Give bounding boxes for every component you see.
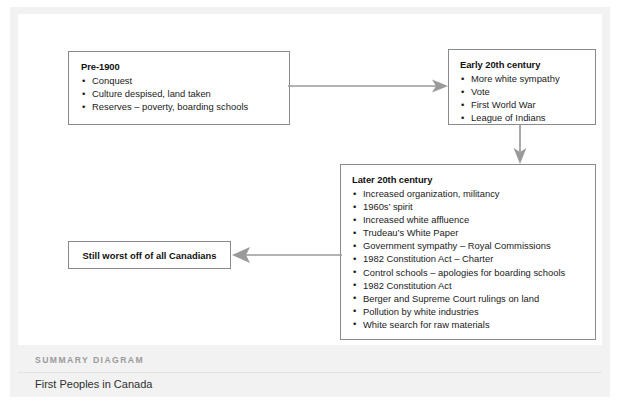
node-bullet: Reserves – poverty, boarding schools <box>81 100 289 113</box>
node-bullet: Trudeau’s White Paper <box>352 226 595 239</box>
arrow-later-20th-century-to-conclusion <box>230 244 342 266</box>
diagram-node-conclusion: Still worst off of all Canadians <box>68 241 231 269</box>
node-bullet: Increased organization, militancy <box>352 187 595 200</box>
node-bullet: 1982 Constitution Act – Charter <box>352 252 595 265</box>
node-bullet: Conquest <box>81 74 289 87</box>
node-bullet-list: Conquest Culture despised, land taken Re… <box>81 74 289 113</box>
diagram-node-later-20th-century: Later 20th century Increased organizatio… <box>340 164 596 340</box>
footer: SUMMARY DIAGRAM First Peoples in Canada <box>18 345 602 395</box>
summary-diagram-page: Pre-1900 Conquest Culture despised, land… <box>0 0 620 411</box>
arrow-early-20th-century-to-later-20th-century <box>510 124 530 166</box>
arrow-pre-1900-to-early-20th-century <box>288 76 450 96</box>
node-bullet: League of Indians <box>460 111 595 124</box>
node-title: Later 20th century <box>352 173 595 186</box>
node-bullet-list: More white sympathy Vote First World War… <box>460 72 595 124</box>
node-bullet: Culture despised, land taken <box>81 87 289 100</box>
node-bullet: Increased white affluence <box>352 213 595 226</box>
node-bullet: 1982 Constitution Act <box>352 279 595 292</box>
node-bullet: Berger and Supreme Court rulings on land <box>352 292 595 305</box>
node-bullet: More white sympathy <box>460 72 595 85</box>
node-bullet-list: Increased organization, militancy 1960s’… <box>352 187 595 331</box>
conclusion-text: Still worst off of all Canadians <box>83 250 217 261</box>
node-bullet: 1960s’ spirit <box>352 200 595 213</box>
node-title: Early 20th century <box>460 58 595 71</box>
footer-title: First Peoples in Canada <box>35 378 152 390</box>
node-bullet: Control schools – apologies for boarding… <box>352 266 595 279</box>
footer-kicker: SUMMARY DIAGRAM <box>35 355 144 365</box>
footer-divider <box>18 372 602 373</box>
node-bullet: Government sympathy – Royal Commissions <box>352 239 595 252</box>
diagram-canvas: Pre-1900 Conquest Culture despised, land… <box>18 14 602 345</box>
node-bullet: First World War <box>460 98 595 111</box>
diagram-node-pre-1900: Pre-1900 Conquest Culture despised, land… <box>68 51 290 125</box>
node-title: Pre-1900 <box>81 60 289 73</box>
diagram-node-early-20th-century: Early 20th century More white sympathy V… <box>448 49 596 125</box>
node-bullet: White search for raw materials <box>352 318 595 331</box>
node-bullet: Vote <box>460 85 595 98</box>
node-bullet: Pollution by white industries <box>352 305 595 318</box>
